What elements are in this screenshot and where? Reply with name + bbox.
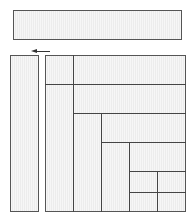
grid-divider-v2 [101, 113, 102, 212]
grid-divider-v1 [73, 55, 74, 212]
arrow-shaft [35, 51, 50, 52]
grid-divider-h1 [45, 84, 186, 85]
grid-rectangle [45, 55, 186, 212]
grid-divider-h2 [73, 113, 186, 114]
grid-divider-v3 [129, 142, 130, 212]
top-bar-rectangle [13, 10, 182, 40]
grid-divider-h5 [129, 192, 186, 193]
grid-divider-h3 [101, 142, 186, 143]
left-column-rectangle [10, 55, 39, 212]
